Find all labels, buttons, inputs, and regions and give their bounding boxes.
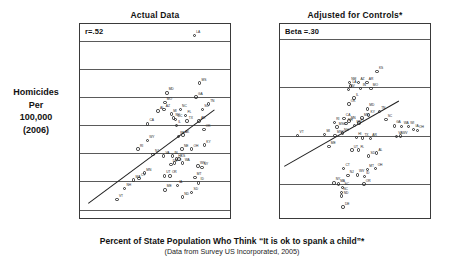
data-point-label: NJ — [155, 149, 159, 153]
data-point — [362, 182, 365, 185]
data-point-label: KS — [379, 66, 383, 70]
data-point-label: WY — [149, 135, 154, 139]
data-point-label: GA — [198, 92, 203, 96]
gridline-y — [80, 181, 230, 182]
data-point-label: TN — [381, 106, 385, 110]
data-point — [146, 139, 149, 142]
data-point-label: AR — [201, 116, 205, 120]
data-point-label: OR — [172, 170, 177, 174]
data-point-label: VT — [300, 130, 304, 134]
data-point-label: OK — [351, 99, 356, 103]
data-point-label: MSO — [339, 122, 346, 126]
data-point — [201, 108, 204, 111]
gridline-y — [280, 39, 430, 40]
data-point-label: CT — [345, 163, 349, 167]
data-point — [197, 119, 200, 122]
data-point-label: RI — [140, 144, 143, 148]
data-point — [176, 184, 179, 187]
data-point — [337, 182, 340, 185]
data-point — [366, 107, 369, 110]
data-point — [200, 166, 203, 169]
plot-area-actual-data: 0.002.004.006.008.0010.0012.005060708090… — [80, 24, 230, 218]
data-point — [163, 188, 166, 191]
data-point-label: TX — [364, 133, 368, 137]
y-axis-label-line-2: Per — [2, 99, 70, 112]
data-point — [185, 119, 188, 122]
data-point-label: MD — [169, 87, 174, 91]
data-point-label: MA — [136, 175, 141, 179]
data-point-label: LA — [196, 30, 200, 34]
y-axis-label-line-3: 100,000 — [2, 111, 70, 124]
data-point — [359, 87, 362, 90]
data-point — [356, 173, 359, 176]
data-point — [184, 114, 187, 117]
data-point-label: NC — [182, 104, 187, 108]
data-point-label: CA — [346, 113, 350, 117]
data-point — [180, 147, 183, 150]
data-point-label: MI — [326, 129, 329, 133]
data-point — [332, 181, 335, 184]
y-axis-label-block: Homicides Per 100,000 (2006) — [2, 86, 70, 136]
data-point-label: MT — [197, 172, 202, 176]
data-point-label: MD — [369, 103, 374, 107]
data-point-label: IL — [178, 120, 181, 124]
data-point-label: IA — [179, 180, 182, 184]
data-point — [407, 125, 410, 128]
data-point-label: SD — [194, 187, 198, 191]
data-point-label: IL — [356, 93, 359, 97]
data-point-label: NJ — [350, 170, 354, 174]
data-point — [151, 153, 154, 156]
data-point — [378, 110, 381, 113]
data-point-label: GA — [396, 120, 401, 124]
data-point — [361, 136, 364, 139]
data-point-label: SC — [204, 104, 208, 108]
data-point-label: MN — [146, 168, 151, 172]
data-point — [357, 148, 360, 151]
data-point — [327, 145, 330, 148]
data-point — [393, 124, 396, 127]
figure-root: Actual Data Adjusted for Controls* Homic… — [0, 0, 464, 259]
data-point-label: MS — [364, 113, 369, 117]
scatter-panel-adjusted: -2.000.002.004.00-15-10-5051015KSNMAZARL… — [279, 23, 431, 219]
data-point — [177, 135, 180, 138]
data-point-label: AZ — [166, 104, 170, 108]
data-point-label: IN — [174, 151, 177, 155]
data-point-label: NH — [348, 118, 353, 122]
data-point — [369, 137, 372, 140]
panel-title-actual-data: Actual Data — [131, 10, 180, 20]
data-point — [416, 129, 419, 132]
data-point — [357, 81, 360, 84]
data-point-label: DC — [178, 114, 183, 118]
data-point — [162, 154, 165, 157]
data-point — [342, 167, 345, 170]
data-point — [375, 70, 378, 73]
data-point — [369, 87, 372, 90]
x-axis-subtitle: (Data from Survey US Incorporated, 2005) — [0, 247, 464, 256]
data-point — [165, 91, 168, 94]
data-point — [395, 135, 398, 138]
correlation-annotation: r=.52 — [85, 27, 103, 36]
data-point-label: OH — [378, 163, 383, 167]
data-point — [193, 34, 196, 37]
data-point-label: PA — [180, 131, 184, 135]
data-point-label: IA — [416, 124, 419, 128]
data-point-label: CA — [150, 118, 154, 122]
data-point — [335, 125, 338, 128]
data-point-label: AR — [369, 77, 373, 81]
data-point-label: NV — [350, 84, 354, 88]
data-point-label: OH — [419, 125, 424, 129]
data-point — [193, 176, 196, 179]
data-point — [340, 194, 343, 197]
data-point — [163, 174, 166, 177]
data-point — [353, 124, 356, 127]
data-point — [346, 174, 349, 177]
data-point-label: ME — [331, 141, 336, 145]
data-point-label: MO — [373, 83, 378, 87]
data-point-label: WV — [402, 131, 407, 135]
plot-area-adjusted: -2.000.002.004.00-15-10-5051015KSNMAZARL… — [280, 24, 430, 218]
scatter-panel-actual-data: 0.002.004.006.008.0010.0012.005060708090… — [79, 23, 231, 219]
data-point — [169, 163, 172, 166]
data-point — [181, 195, 184, 198]
gridline-y — [280, 184, 430, 185]
data-point — [171, 154, 174, 157]
